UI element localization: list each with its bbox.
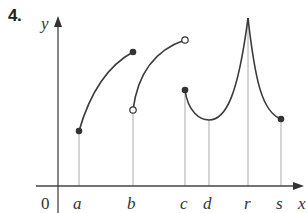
open-dot-c: [182, 37, 188, 43]
closed-dot-c: [182, 87, 189, 94]
closed-dot-s: [278, 116, 285, 123]
origin-label: 0: [41, 194, 50, 213]
function-graph: y x 0 a b c d r s: [0, 0, 308, 213]
x-axis-label: x: [297, 194, 306, 213]
curve-piece-b-c: [133, 40, 185, 110]
x-axis-arrow-icon: [293, 182, 304, 190]
closed-dot-a: [76, 128, 83, 135]
curve-piece-a-b: [79, 52, 133, 131]
tick-label-b: b: [127, 194, 136, 213]
y-axis-label: y: [39, 14, 49, 33]
closed-dot-b: [130, 49, 137, 56]
tick-label-r: r: [244, 194, 251, 213]
curve-piece-c-r: [185, 18, 248, 120]
curve-piece-r-s: [248, 18, 281, 119]
curve: [79, 18, 281, 131]
y-axis-arrow-icon: [54, 16, 62, 27]
graph-figure: 4.: [0, 0, 308, 213]
tick-label-d: d: [203, 194, 212, 213]
tick-label-c: c: [180, 194, 188, 213]
open-dot-b: [130, 107, 136, 113]
tick-label-a: a: [73, 194, 82, 213]
tick-label-s: s: [276, 194, 283, 213]
